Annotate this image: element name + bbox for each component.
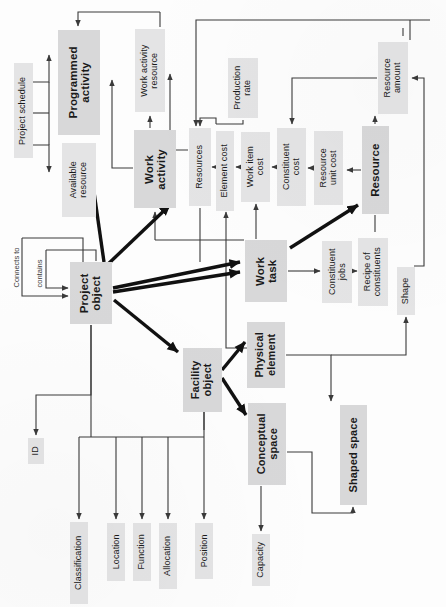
node-label: Constituent jobs [327, 249, 346, 296]
node-label: Resource unit cost [319, 148, 338, 187]
edge-label-connects_to: Connects to [10, 236, 22, 298]
diagram-canvas: Project scheduleProgrammed activityAvail… [0, 0, 446, 607]
node-capacity: Capacity [252, 534, 270, 586]
node-classification: Classification [70, 522, 88, 604]
node-shape: Shape [397, 267, 415, 315]
node-resource_unit_cost: Resource unit cost [314, 131, 343, 205]
node-allocation: Allocation [159, 523, 177, 589]
node-work_task: Work task [245, 240, 287, 302]
node-label: Recipe of constituents [363, 247, 382, 296]
node-label: Position [199, 535, 209, 568]
node-label: Location [111, 535, 121, 570]
node-label: Shape [401, 278, 411, 305]
node-function: Function [133, 523, 151, 581]
node-available_resource: Available resource [62, 143, 96, 217]
node-location: Location [107, 523, 125, 581]
node-label: Function [137, 534, 147, 569]
node-position: Position [195, 523, 213, 579]
node-label: Classification [74, 536, 84, 590]
node-label: ID [31, 446, 41, 455]
node-label: Resource [369, 143, 381, 196]
node-programmed_activity: Programmed activity [58, 30, 100, 135]
node-label: Work activity resource [140, 44, 159, 96]
node-resources: Resources [189, 128, 211, 206]
node-project_object: Project object [70, 262, 112, 324]
node-label: Physical element [254, 332, 278, 377]
node-physical_element: Physical element [247, 322, 285, 388]
node-project_schedule: Project schedule [14, 63, 33, 158]
node-production_rate: Production rate [228, 58, 258, 118]
node-label: Constituent cost [282, 144, 301, 191]
node-conceptual_space: Conceptual space [248, 403, 286, 485]
node-work_activity: Work activity [134, 130, 176, 208]
node-work_activity_res: Work activity resource [135, 29, 165, 112]
node-label: Work task [254, 257, 279, 286]
node-resource_amount: Resource amount [378, 42, 408, 114]
node-label: Available resource [69, 161, 88, 198]
node-label: Resource amount [383, 58, 402, 97]
node-constituent_jobs: Constituent jobs [322, 241, 352, 303]
node-id: ID [28, 438, 44, 464]
node-label: Resources [195, 145, 205, 189]
node-label: Work activity [143, 149, 168, 189]
node-label: Project schedule [19, 76, 29, 144]
node-label: Work item cost [246, 146, 265, 187]
node-label: Element cost [220, 144, 230, 197]
node-work_item_cost: Work item cost [241, 132, 270, 202]
node-resource: Resource [362, 126, 389, 214]
node-shaped_space: Shaped space [340, 405, 367, 505]
edge-label-text: Connects to [12, 247, 21, 287]
node-label: Capacity [256, 542, 266, 578]
node-element_cost: Element cost [216, 131, 234, 211]
node-label: Shaped space [348, 417, 360, 492]
node-facility_object: Facility object [183, 348, 222, 412]
node-label: Conceptual space [255, 414, 279, 475]
node-label: Production rate [233, 66, 252, 110]
edge-label-text: contains [36, 259, 45, 287]
node-label: Allocation [163, 536, 173, 576]
node-constituent_cost: Constituent cost [277, 128, 306, 206]
node-label: Facility object [191, 361, 215, 400]
node-label: Programmed activity [67, 47, 92, 119]
node-label: Project object [79, 273, 104, 313]
edge-label-contains: contains [34, 248, 46, 298]
node-recipe_constituents: Recipe of constituents [358, 238, 388, 306]
